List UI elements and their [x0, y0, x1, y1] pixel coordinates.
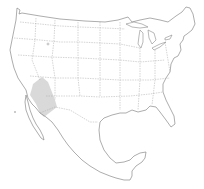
lake-michigan — [138, 30, 143, 48]
lake-huron — [148, 30, 156, 44]
lake-superior — [126, 22, 148, 28]
lake-erie — [152, 42, 166, 50]
lake-ontario — [165, 35, 172, 40]
island — [47, 43, 49, 45]
highlighted-region-sonoran-desert — [30, 77, 57, 117]
map-canvas — [0, 0, 204, 189]
island — [14, 111, 16, 113]
